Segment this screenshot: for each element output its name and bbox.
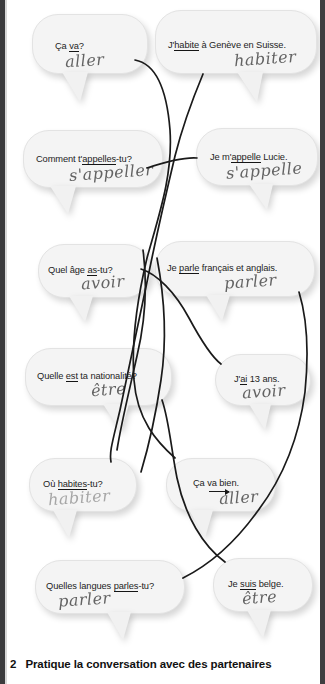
question-text-before: Je [167, 263, 179, 273]
speech-bubble-tail [249, 404, 271, 430]
question-text-after: -tu? [138, 581, 154, 591]
question-underlined-verb: est [66, 371, 78, 382]
question-underlined-verb: va [207, 478, 217, 488]
handwritten-infinitive: être [90, 379, 126, 400]
question-underlined-verb: parles [114, 581, 139, 592]
handwritten-infinitive: parler [57, 588, 111, 611]
bubble-question-text: Ça va bien. [193, 478, 239, 488]
question-text-before: Où [43, 479, 58, 489]
question-text-before: Je [228, 579, 240, 589]
handwritten-infinitive: s'appelle [225, 158, 302, 182]
speech-bubble-ou-habites-tu: Où habites-tu? habiter [29, 458, 137, 512]
speech-bubble-tail [103, 404, 129, 432]
handwritten-infinitive: aller [64, 50, 105, 72]
speech-bubble-tail [53, 510, 77, 538]
speech-bubble-je-suis-belge: Je suis belge. être [213, 558, 313, 612]
speech-bubble-quelles-langues-parles-tu: Quelles langues parles-tu? parler [35, 560, 185, 614]
speech-bubble-comment-tappelles-tu: Comment t'appelles-tu? s'appeller [23, 130, 163, 188]
speech-bubble-ca-va: Ça va? aller [32, 14, 148, 74]
handwritten-infinitive: habiter [233, 47, 296, 70]
exercise-caption: 2 Pratique la conversation avec des part… [10, 658, 315, 670]
speech-bubble-ca-va-bien: Ça va bien. aller [166, 458, 276, 512]
speech-bubble-illustration: Ça va? aller J'habite à Genève en Suisse… [7, 0, 320, 652]
connector-lines [7, 0, 320, 652]
speech-bubble-tail [62, 72, 88, 102]
handwritten-infinitive: parler [223, 270, 277, 293]
speech-bubble-tail [189, 510, 213, 538]
speech-bubble-tail [107, 612, 131, 640]
page-edge-right [320, 0, 325, 684]
handwritten-infinitive: avoir [241, 381, 286, 403]
handwritten-infinitive: aller [218, 487, 259, 509]
question-text-before: Quelle [37, 371, 66, 381]
speech-bubble-tail [247, 610, 271, 638]
question-underlined-verb: parle [179, 263, 199, 274]
exercise-number: 2 [10, 658, 16, 670]
question-text-before: Ça [193, 478, 207, 488]
question-underlined-verb: habite [174, 40, 199, 51]
handwritten-infinitive: habiter [47, 486, 110, 509]
speech-bubble-je-mappelle-lucie: Je m'appelle Lucie. s'appelle [196, 128, 318, 186]
speech-bubble-tail [69, 296, 93, 322]
worksheet-page: Ça va? aller J'habite à Genève en Suisse… [0, 0, 325, 684]
speech-bubble-quelle-nationalite: Quelle est ta nationalité? être [25, 348, 172, 406]
bubble-question-text: Ça va? [55, 41, 84, 51]
question-text-before: Ça [55, 41, 69, 51]
speech-bubble-tail [249, 184, 273, 210]
question-text-after: bien. [217, 478, 239, 488]
handwritten-infinitive: avoir [80, 272, 125, 294]
speech-bubble-jai-13-ans: J'ai 13 ans. avoir [215, 354, 311, 406]
speech-bubble-quel-age-as-tu: Quel âge as-tu? avoir [38, 244, 151, 298]
speech-bubble-je-parle-francais: Je parle français et anglais. parler [155, 241, 315, 297]
speech-bubble-tail [206, 295, 230, 321]
handwritten-infinitive: être [241, 587, 277, 608]
speech-bubble-jhabite-geneve: J'habite à Genève en Suisse. habiter [155, 10, 317, 74]
question-text-before: Comment t' [36, 154, 82, 164]
speech-bubble-tail [50, 186, 76, 214]
question-underlined-verb: va [69, 41, 79, 52]
speech-bubble-tail [237, 72, 263, 102]
question-text-after: ? [79, 41, 84, 51]
question-text-before: Je m' [210, 152, 231, 162]
exercise-instruction: Pratique la conversation avec des parten… [25, 658, 271, 670]
